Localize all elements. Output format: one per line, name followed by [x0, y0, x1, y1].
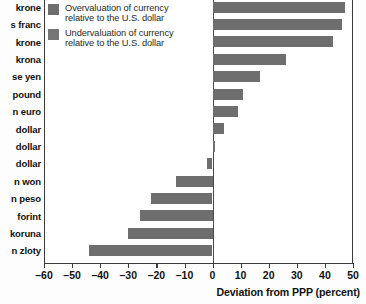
legend-swatch-overvaluation	[48, 4, 59, 15]
category-label: krona	[16, 54, 41, 65]
legend-label-undervaluation-line2: relative to the U.S. dollar	[65, 38, 164, 48]
category-label: se yen	[12, 71, 41, 82]
x-axis-tick-label: –40	[91, 269, 109, 281]
bar	[213, 141, 216, 152]
x-axis-tick-label: 20	[263, 269, 275, 281]
x-axis-line	[44, 263, 353, 264]
x-axis-tick	[156, 263, 157, 268]
x-axis-tick-label: 40	[319, 269, 331, 281]
x-axis-tick	[72, 263, 73, 268]
legend-label-overvaluation-line2: relative to the U.S. dollar	[65, 13, 164, 23]
x-axis-tick-label: 10	[235, 269, 247, 281]
bar	[151, 193, 213, 204]
category-label: n won	[14, 176, 41, 187]
category-label: krone	[16, 2, 41, 13]
x-axis-tick	[44, 263, 45, 268]
bar	[213, 71, 261, 82]
x-axis-tick-label: 50	[347, 269, 359, 281]
bar	[89, 245, 213, 256]
x-axis-tick-label: 30	[291, 269, 303, 281]
x-axis-tick-label: –60	[35, 269, 53, 281]
x-axis-tick	[213, 263, 214, 268]
legend-label-undervaluation: Undervaluation of currency relative to t…	[65, 28, 174, 49]
category-label: pound	[12, 89, 41, 100]
legend-swatch-undervaluation	[48, 29, 59, 40]
bar	[213, 123, 224, 134]
category-label-column: krones franckronekronase yenpoundn eurod…	[0, 0, 44, 262]
bar	[213, 19, 342, 30]
bar	[213, 106, 238, 117]
category-label: dollar	[16, 158, 41, 169]
x-axis-tick-label: –50	[63, 269, 81, 281]
x-axis-tick	[325, 263, 326, 268]
bar	[176, 176, 213, 187]
legend-label-overvaluation-line1: Overvaluation of currency	[65, 3, 168, 13]
category-label: koruna	[10, 228, 41, 239]
x-axis-tick	[185, 263, 186, 268]
chart-legend: Overvaluation of currency relative to th…	[48, 3, 198, 53]
legend-item-undervaluation: Undervaluation of currency relative to t…	[48, 28, 198, 49]
x-axis-tick	[353, 263, 354, 268]
category-label: forint	[17, 211, 41, 222]
category-label: s franc	[11, 19, 41, 30]
x-axis-tick-label: –30	[120, 269, 138, 281]
x-axis-tick-label: –20	[148, 269, 166, 281]
x-axis-title: Deviation from PPP (percent)	[0, 286, 360, 298]
bar	[213, 54, 286, 65]
x-axis-tick	[128, 263, 129, 268]
bar	[207, 158, 213, 169]
x-axis-tick	[269, 263, 270, 268]
category-label: dollar	[16, 124, 41, 135]
x-axis-tick	[100, 263, 101, 268]
bar	[140, 210, 213, 221]
legend-label-undervaluation-line1: Undervaluation of currency	[65, 28, 174, 38]
bar	[213, 89, 244, 100]
x-axis-tick-label: 0	[210, 269, 216, 281]
x-axis-tick	[241, 263, 242, 268]
category-label: krone	[16, 37, 41, 48]
legend-item-overvaluation: Overvaluation of currency relative to th…	[48, 3, 198, 24]
x-axis-tick	[297, 263, 298, 268]
category-label: n euro	[13, 106, 41, 117]
bar	[213, 2, 345, 13]
category-label: n peso	[11, 193, 41, 204]
category-label: n zloty	[12, 245, 41, 256]
bar-chart: krones franckronekronase yenpoundn eurod…	[0, 0, 366, 304]
legend-label-overvaluation: Overvaluation of currency relative to th…	[65, 3, 168, 24]
category-label: dollar	[16, 141, 41, 152]
x-axis-tick-label: –10	[176, 269, 194, 281]
bar	[213, 36, 334, 47]
bar	[128, 228, 212, 239]
